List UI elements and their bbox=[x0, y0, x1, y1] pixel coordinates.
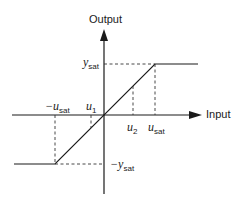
saturation-curve bbox=[14, 64, 198, 164]
neg-u-sat-label: −usat bbox=[45, 100, 70, 115]
u2-sub: 2 bbox=[133, 127, 137, 136]
u2-label: u2 bbox=[127, 121, 137, 136]
u1-sub: 1 bbox=[92, 106, 96, 115]
y-sat-sub: sat bbox=[88, 62, 99, 71]
y-sat-label: ysat bbox=[83, 56, 99, 71]
neg-y-sat-label: −ysat bbox=[110, 158, 134, 173]
u1-label: u1 bbox=[86, 100, 96, 115]
x-axis-label: Input bbox=[206, 109, 230, 120]
x-axis-arrow-icon bbox=[189, 111, 202, 119]
neg-u-sat-prefix: − bbox=[45, 99, 53, 113]
neg-u-sat-sub: sat bbox=[59, 106, 70, 115]
y-axis-label: Output bbox=[89, 14, 122, 25]
y-axis-arrow-icon bbox=[100, 29, 108, 41]
u-sat-label: usat bbox=[148, 121, 165, 136]
u-sat-sub: sat bbox=[154, 127, 165, 136]
neg-y-sat-prefix: − bbox=[110, 157, 118, 171]
neg-y-sat-sub: sat bbox=[123, 164, 134, 173]
